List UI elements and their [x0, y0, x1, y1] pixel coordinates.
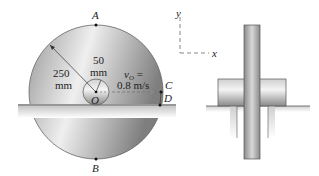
- label-50-unit: mm: [90, 66, 108, 78]
- wheel-plate: [244, 25, 260, 159]
- label-A: A: [91, 9, 99, 21]
- label-250: 250: [53, 67, 70, 79]
- label-O: O: [91, 94, 99, 106]
- point-B: [95, 158, 98, 161]
- axis-y-label: y: [175, 7, 181, 19]
- front-view: [18, 24, 176, 161]
- label-velocity-value: 0.8 m/s: [117, 79, 149, 91]
- label-B: B: [92, 162, 99, 174]
- support-right: [268, 106, 275, 138]
- wheel-on-rail-diagram: A B C D O 250 mm 50 mm vO = 0.8 m/s y x: [0, 0, 319, 176]
- support-left: [230, 106, 237, 138]
- side-view: [206, 25, 310, 159]
- axis-x-label: x: [211, 47, 217, 59]
- point-O: [95, 91, 98, 94]
- point-A: [95, 24, 98, 27]
- label-250-unit: mm: [55, 79, 73, 91]
- label-D: D: [163, 92, 172, 104]
- axes-indicator: [180, 17, 209, 53]
- rail: [18, 104, 176, 118]
- label-C: C: [165, 79, 173, 91]
- label-50: 50: [93, 54, 105, 66]
- side-rail-left: [206, 106, 246, 112]
